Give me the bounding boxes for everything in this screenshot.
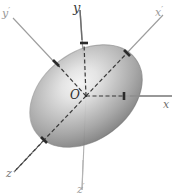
axis-label-z: z bbox=[6, 168, 12, 179]
axis-label-z-prime: z′ bbox=[77, 182, 85, 195]
diagram-canvas bbox=[0, 0, 175, 196]
axis-label-y-prime: y′ bbox=[2, 6, 10, 19]
ellipsoid-coordinate-diagram: y′ y x′ x z z′ O bbox=[0, 0, 175, 196]
axis-label-x-prime: x′ bbox=[155, 5, 163, 18]
prime-mark-x-prime: ′ bbox=[161, 4, 163, 13]
axis-label-x: x bbox=[163, 99, 169, 110]
axis-label-y: y bbox=[73, 1, 80, 14]
origin-label: O bbox=[70, 89, 80, 101]
origin-point bbox=[85, 95, 87, 97]
prime-mark-y-prime: ′ bbox=[8, 5, 10, 14]
prime-mark-z-prime: ′ bbox=[83, 181, 85, 190]
axis-y-foreground bbox=[80, 10, 82, 40]
